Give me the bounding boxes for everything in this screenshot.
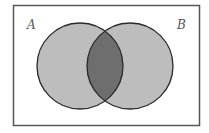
set-b-label: B [176, 18, 186, 32]
venn-diagram: A B [0, 0, 209, 133]
set-a-label: A [26, 18, 36, 32]
